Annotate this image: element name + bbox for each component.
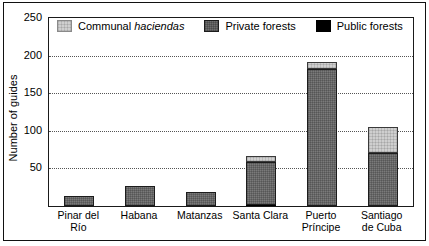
public-swatch [316,20,331,32]
bar-group [368,127,398,206]
bar-segment [186,192,216,206]
bar-segment [64,196,94,206]
chart-legend: Communal haciendasPrivate forestsPublic … [57,20,403,32]
gridline [49,168,413,169]
gridline [49,131,413,132]
bar-group [246,156,276,206]
x-axis: Pinar del RíoHabanaMatanzasSanta ClaraPu… [48,210,414,244]
y-axis-title: Number of guides [7,58,19,178]
x-tick-label: Santa Clara [230,210,291,222]
x-tick-label: PuertoPríncipe [291,210,352,233]
bar-group [64,196,94,206]
legend-label: Communal haciendas [78,20,184,32]
communal-swatch [57,20,72,32]
legend-label: Public forests [337,20,403,32]
chart-figure: 50100150200250 Number of guides Pinar de… [0,0,429,246]
bar-segment [368,153,398,206]
x-tick-label: Habana [109,210,170,222]
legend-label: Private forests [225,20,295,32]
legend-entry: Public forests [316,20,403,32]
x-tick-label: Matanzas [169,210,230,222]
bar-segment [368,127,398,153]
bar-group [186,192,216,206]
y-tick-label: 250 [2,12,42,23]
legend-entry: Private forests [204,20,295,32]
private-swatch [204,20,219,32]
bar-segment [307,62,337,70]
x-tick-label: Santiagode Cuba [351,210,412,233]
plot-area [48,17,414,207]
bar-group [307,62,337,206]
gridline [49,93,413,94]
bar-segment [307,69,337,206]
gridline [49,56,413,57]
bar-group [125,186,155,206]
bar-segment [125,186,155,206]
x-tick-label: Pinar del Río [48,210,109,233]
legend-entry: Communal haciendas [57,20,184,32]
bar-segment [246,205,276,207]
bar-segment [246,162,276,205]
